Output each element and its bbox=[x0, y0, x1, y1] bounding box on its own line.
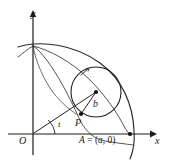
y-axis bbox=[30, 10, 36, 155]
outer-circle-arc bbox=[18, 44, 134, 159]
x-axis-label: x bbox=[155, 136, 159, 146]
point-p bbox=[79, 112, 83, 116]
point-p-label: P bbox=[75, 118, 81, 128]
ray-origin-to-center bbox=[34, 92, 96, 133]
origin-label: O bbox=[19, 136, 26, 146]
involute-curve bbox=[18, 46, 133, 145]
point-a-suffix: , 0) bbox=[103, 135, 116, 145]
point-a-equals: = ( bbox=[85, 135, 98, 145]
radius-label-b: b bbox=[93, 99, 98, 109]
angle-label-t: t bbox=[58, 120, 61, 129]
point-a bbox=[128, 132, 132, 136]
angle-arc-t bbox=[48, 120, 55, 134]
y-axis-label: y bbox=[31, 9, 35, 19]
geometry-figure: y x O t P b A = (a, 0) bbox=[0, 0, 172, 162]
point-a-label: A = (a, 0) bbox=[79, 136, 116, 146]
point-circle-center bbox=[94, 90, 98, 94]
